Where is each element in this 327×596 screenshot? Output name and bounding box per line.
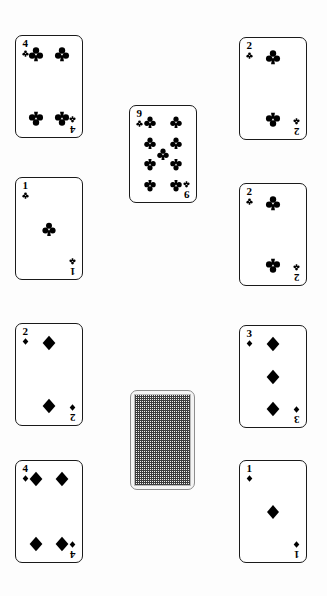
- card-face: 11: [240, 461, 306, 562]
- club-pip-icon: [143, 137, 156, 150]
- card-corner-index-bottom-right: 3: [291, 406, 303, 424]
- playing-card[interactable]: 11: [15, 177, 83, 280]
- diamond-pip-icon: [266, 504, 281, 519]
- card-face: 33: [240, 326, 306, 427]
- diamond-pip-icon: [54, 536, 70, 552]
- diamond-pip-icon: [265, 336, 281, 352]
- club-pip-icon: [157, 148, 170, 161]
- club-pip-icon: [265, 112, 281, 128]
- card-rank-label: 1: [67, 267, 79, 276]
- playing-card[interactable]: 22: [239, 183, 307, 286]
- playing-card[interactable]: 11: [239, 460, 307, 563]
- card-face: 22: [16, 324, 82, 425]
- club-pip-icon: [143, 116, 156, 129]
- playing-card[interactable]: 22: [15, 323, 83, 426]
- playing-card[interactable]: 44: [15, 460, 83, 563]
- card-rank-label: 2: [67, 413, 79, 422]
- card-rank-label: 1: [291, 550, 303, 559]
- card-corner-index-bottom-right: 2: [291, 264, 303, 282]
- club-icon: [291, 264, 303, 273]
- club-icon: [291, 118, 303, 127]
- diamond-pip-icon: [28, 471, 44, 487]
- card-corner-index-top-left: 2: [243, 41, 255, 59]
- card-face: 44: [16, 461, 82, 562]
- card-corner-index-top-left: 2: [19, 327, 31, 345]
- diamond-pip-icon: [54, 471, 70, 487]
- club-pip-icon: [28, 46, 44, 62]
- club-pip-icon: [170, 179, 183, 192]
- card-face: 11: [16, 178, 82, 279]
- club-pip-icon: [42, 221, 57, 236]
- card-rank-label: 2: [243, 41, 255, 50]
- playing-card[interactable]: 99: [129, 105, 197, 203]
- card-face: 99: [130, 106, 196, 202]
- card-corner-index-top-left: 3: [243, 329, 255, 347]
- card-corner-index-bottom-right: 2: [291, 118, 303, 136]
- card-rank-label: 3: [291, 415, 303, 424]
- club-icon: [67, 258, 79, 267]
- card-rank-label: 2: [291, 127, 303, 136]
- diamond-icon: [243, 473, 255, 482]
- diamond-icon: [243, 338, 255, 347]
- card-corner-index-top-left: 1: [19, 181, 31, 199]
- card-rank-label: 1: [19, 181, 31, 190]
- diamond-icon: [291, 541, 303, 550]
- card-rank-label: 2: [243, 187, 255, 196]
- diamond-pip-icon: [265, 401, 281, 417]
- club-icon: [243, 196, 255, 205]
- card-corner-index-bottom-right: 1: [67, 258, 79, 276]
- club-pip-icon: [54, 111, 70, 127]
- club-pip-icon: [143, 179, 156, 192]
- playing-card[interactable]: 44: [15, 35, 83, 138]
- diamond-icon: [19, 336, 31, 345]
- club-pip-icon: [54, 46, 70, 62]
- playing-card-face-down[interactable]: [130, 390, 195, 490]
- club-pip-icon: [170, 116, 183, 129]
- card-corner-index-top-left: 2: [243, 187, 255, 205]
- card-corner-index-top-left: 1: [243, 464, 255, 482]
- club-pip-icon: [265, 258, 281, 274]
- club-pip-icon: [143, 158, 156, 171]
- playing-card[interactable]: 22: [239, 37, 307, 140]
- card-corner-index-bottom-right: 2: [67, 404, 79, 422]
- club-pip-icon: [265, 195, 281, 211]
- card-rank-label: 3: [243, 329, 255, 338]
- card-back-pattern: [134, 394, 191, 486]
- card-rank-label: 2: [291, 273, 303, 282]
- club-pip-icon: [170, 137, 183, 150]
- club-icon: [19, 190, 31, 199]
- card-rank-label: 2: [19, 327, 31, 336]
- card-face: 22: [240, 38, 306, 139]
- diamond-pip-icon: [265, 369, 281, 385]
- club-pip-icon: [28, 111, 44, 127]
- diamond-pip-icon: [41, 335, 57, 351]
- card-rank-label: 9: [181, 190, 193, 199]
- diamond-icon: [291, 406, 303, 415]
- club-icon: [243, 50, 255, 59]
- playing-card[interactable]: 33: [239, 325, 307, 428]
- club-icon: [181, 181, 193, 190]
- card-face: 44: [16, 36, 82, 137]
- diamond-pip-icon: [41, 398, 57, 414]
- club-pip-icon: [170, 158, 183, 171]
- card-face: 22: [240, 184, 306, 285]
- diamond-icon: [67, 404, 79, 413]
- card-rank-label: 1: [243, 464, 255, 473]
- club-pip-icon: [265, 49, 281, 65]
- diamond-pip-icon: [28, 536, 44, 552]
- card-corner-index-bottom-right: 1: [291, 541, 303, 559]
- card-corner-index-bottom-right: 9: [181, 181, 193, 199]
